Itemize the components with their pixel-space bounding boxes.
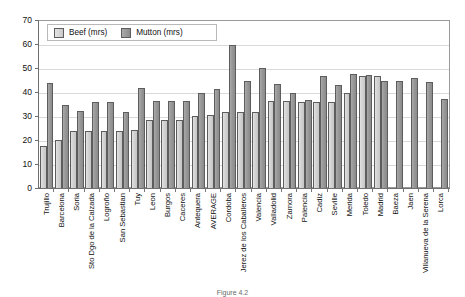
bar	[55, 140, 62, 188]
bar-group	[358, 21, 373, 188]
bar	[259, 68, 266, 188]
x-axis-label-cell: Villanueva de la Serena	[419, 193, 434, 285]
x-axis-tickmark	[434, 188, 449, 192]
bar	[107, 102, 114, 188]
legend-swatch	[54, 28, 64, 38]
x-axis-tickmark	[252, 188, 267, 192]
bar	[92, 102, 99, 188]
figure-caption: Figure 4.2	[0, 288, 465, 297]
bar-group	[69, 21, 84, 188]
legend-item: Mutton (mrs)	[121, 28, 182, 38]
bar	[161, 120, 168, 188]
x-axis-tick-label: Baeza	[392, 193, 400, 215]
x-axis-label-cell: Caceres	[176, 193, 191, 285]
x-axis-tickmarks	[39, 188, 449, 192]
x-axis-tick-label: Jerez de los Caballeros	[240, 193, 248, 272]
bar-group	[100, 21, 115, 188]
bar	[229, 45, 236, 188]
x-axis-tickmark	[358, 188, 373, 192]
x-axis-label-cell: Jaen	[404, 193, 419, 285]
bar	[374, 76, 381, 188]
x-axis-tick-label: Seville	[331, 193, 339, 215]
bar	[198, 93, 205, 188]
bar	[207, 115, 214, 188]
bar-group	[130, 21, 145, 188]
bar	[411, 78, 418, 188]
bar	[366, 75, 373, 188]
x-axis-label-cell: Palencia	[297, 193, 312, 285]
bar	[335, 85, 342, 188]
bar-group	[85, 21, 100, 188]
x-axis-tickmark	[282, 188, 297, 192]
bar	[268, 101, 275, 188]
x-axis-tick-label: San Sebastian	[119, 193, 127, 242]
x-axis-tick-label: Antequera	[194, 193, 202, 228]
x-axis-tickmark	[343, 188, 358, 192]
x-axis-label-cell: Barcelona	[54, 193, 69, 285]
bar-group	[297, 21, 312, 188]
x-axis-label-cell: Cordoba	[221, 193, 236, 285]
x-axis-label-cell: Tuy	[130, 193, 145, 285]
x-axis-tickmark	[328, 188, 343, 192]
bar	[328, 102, 335, 188]
legend-item: Beef (mrs)	[54, 28, 107, 38]
x-axis-tickmark	[206, 188, 221, 192]
bar	[290, 93, 297, 188]
y-axis-tick-label: 50	[0, 64, 32, 72]
bar-group	[252, 21, 267, 188]
bar	[62, 105, 69, 189]
x-axis-tick-label: Valencia	[255, 193, 263, 222]
x-axis-tickmark	[39, 188, 54, 192]
x-axis-label-cell: Toledo	[358, 193, 373, 285]
bar	[244, 81, 251, 188]
y-axis-tick-label: 60	[0, 40, 32, 48]
bar	[146, 120, 153, 188]
x-axis-tick-label: Madrid	[377, 193, 385, 216]
bar	[138, 88, 145, 188]
bar	[131, 130, 138, 188]
bar-group	[39, 21, 54, 188]
bar-group	[404, 21, 419, 188]
x-axis-label-cell: San Sebastian	[115, 193, 130, 285]
x-axis-label-cell: Madrid	[373, 193, 388, 285]
x-axis-tickmark	[176, 188, 191, 192]
bar-group	[54, 21, 69, 188]
x-axis-tick-label: Jaen	[407, 193, 415, 209]
bar	[320, 76, 327, 188]
x-axis-label-cell: Baeza	[388, 193, 403, 285]
chart-legend: Beef (mrs)Mutton (mrs)	[47, 24, 217, 41]
x-axis-label-cell: Valladolid	[267, 193, 282, 285]
bar	[183, 101, 190, 188]
bar-group	[176, 21, 191, 188]
x-axis-label-cell: Burgos	[161, 193, 176, 285]
bar-group	[191, 21, 206, 188]
x-axis-tick-label: Merida	[346, 193, 354, 216]
y-axis-tick-label: 10	[0, 160, 32, 168]
x-axis-label-cell: Zamora	[282, 193, 297, 285]
x-axis-label-cell: Merida	[343, 193, 358, 285]
x-axis-tick-label: Cadiz	[316, 193, 324, 212]
bar	[274, 84, 281, 188]
x-axis-tick-label: Trujillo	[43, 193, 51, 215]
x-axis-tickmark	[373, 188, 388, 192]
x-axis-tickmark	[404, 188, 419, 192]
bar-group	[145, 21, 160, 188]
y-axis-tick-label: 0	[0, 184, 32, 192]
bar-group	[161, 21, 176, 188]
x-axis-tickmark	[130, 188, 145, 192]
bar	[70, 131, 77, 188]
bar	[237, 112, 244, 188]
x-axis-label-cell: Valencia	[252, 193, 267, 285]
bar	[176, 120, 183, 188]
legend-label: Beef (mrs)	[69, 28, 107, 37]
bar	[441, 99, 448, 188]
bar	[252, 112, 259, 188]
x-axis-tickmark	[297, 188, 312, 192]
bar-group	[206, 21, 221, 188]
x-axis-label-cell: Soria	[69, 193, 84, 285]
bar	[168, 101, 175, 188]
x-axis-tick-label: Cordoba	[225, 193, 233, 222]
x-axis-label-cell: Logroño	[100, 193, 115, 285]
bar-group	[267, 21, 282, 188]
bar	[305, 100, 312, 188]
